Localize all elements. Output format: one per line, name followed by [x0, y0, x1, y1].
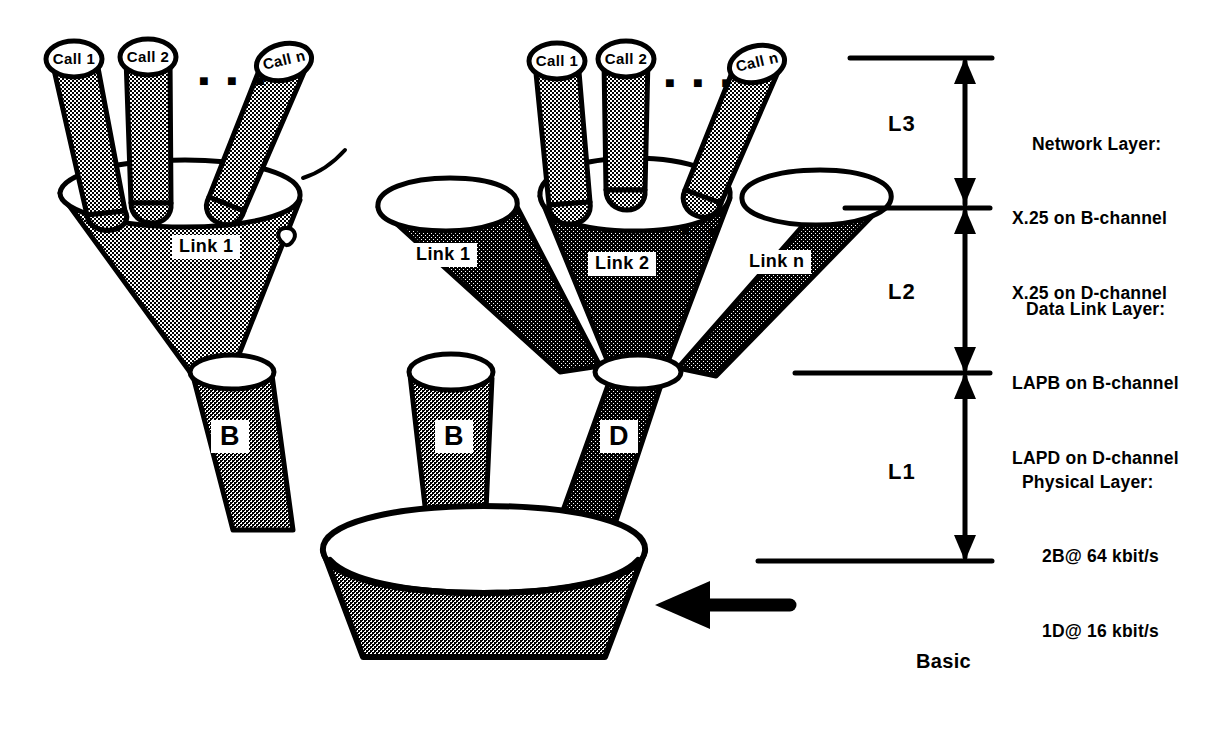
d-channel-tag: D [600, 420, 638, 453]
right-call-ellipsis: ■ ■ ■ [665, 74, 738, 92]
left-call-tube-1 [46, 41, 127, 230]
basic-access-base-funnel [323, 506, 645, 657]
layer-legend-datalink-heading: Data Link Layer: [1012, 297, 1179, 322]
layer-legend-network-heading: Network Layer: [1012, 132, 1167, 157]
caption-line-1: Basic [836, 645, 1051, 677]
diagram-canvas: Call 1 Call 2 Call n ■ ■ ■ Link 1 B B Ca… [0, 0, 1225, 744]
left-b-channel-tag: B [211, 420, 249, 453]
layer-legend-physical-heading: Physical Layer: [1022, 470, 1159, 495]
right-call-label-2: Call 2 [592, 50, 660, 67]
left-call-ellipsis: ■ ■ ■ [199, 72, 272, 90]
right-link-tag-2: Link 2 [588, 252, 656, 276]
layer-tick-l3: L3 [888, 111, 916, 137]
left-link-tag-1: Link 1 [172, 235, 240, 259]
layer-legend-physical-line1: 2B@ 64 kbit/s [1022, 544, 1159, 569]
right-link-ellipsis: ■ ■ [681, 222, 724, 239]
figure-caption: Basic Access Interface Structure [836, 580, 1051, 744]
right-link-tag-1: Link 1 [409, 243, 477, 267]
layer-legend-network-line1: X.25 on B-channel [1012, 206, 1167, 231]
layer-dimension-lines [758, 58, 992, 561]
left-call-label-2: Call 2 [114, 48, 182, 65]
layer-tick-l2: L2 [888, 279, 916, 305]
layer-tick-l1: L1 [888, 459, 916, 485]
layer-legend-datalink-line1: LAPB on B-channel [1012, 371, 1179, 396]
left-call-tube-2 [120, 39, 176, 223]
left-call-label-1: Call 1 [40, 50, 108, 67]
right-link-tag-n: Link n [742, 250, 811, 274]
middle-b-channel-tag: B [435, 420, 473, 453]
caption-arrow [655, 581, 790, 629]
right-call-label-1: Call 1 [523, 52, 591, 69]
